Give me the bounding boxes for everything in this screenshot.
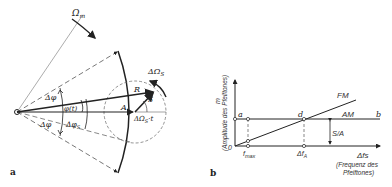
omega-m-label: Ωm (71, 8, 85, 19)
phi-t-label: φ(t) (64, 105, 77, 113)
figure-canvas: Ωm ΔΩS Δφ Δφ φ(t) ΔφS R A S ΔΩS·t a (0, 0, 392, 187)
a-label: A (120, 103, 127, 112)
point-a-label: a (238, 110, 243, 119)
point-d-label: d (298, 110, 303, 119)
delta-phi-s-label: ΔφS (65, 120, 81, 130)
s-a-label: S/A (332, 129, 344, 138)
fm-line (235, 100, 356, 146)
x-axis-label-line1: (Frequenz des (336, 161, 379, 169)
point-b-label: b (376, 110, 381, 119)
x-axis-symbol: Δfs (356, 151, 369, 160)
point-delta-fa (302, 144, 305, 147)
delta-phi-lower-label: Δφ (39, 120, 52, 129)
fm-label: FM (337, 91, 349, 100)
delta-phi-arc-arrowhead-top (58, 90, 63, 94)
am-label: AM (341, 110, 354, 119)
fmax-label: fmax (243, 150, 256, 159)
vector-r (17, 92, 153, 112)
delta-phi-s-arc (85, 99, 87, 129)
point-fmax-fm (246, 139, 249, 142)
delta-omega-s-label: ΔΩS (147, 67, 164, 77)
y-axis-symbol: m (214, 98, 221, 104)
s-label: S (148, 95, 153, 104)
point-fmax-axis (246, 144, 249, 147)
panel-b-label: b (210, 168, 216, 178)
y-axis-label: (Amplitude des Pfeiftones) (221, 75, 229, 151)
point-a (233, 117, 236, 120)
panel-b-chart: a b d FM AM S/A 0 fmax ΔfA Δfs (Frequenz… (210, 75, 381, 178)
omega-m-rotation-arrow (72, 19, 95, 38)
x-axis-label-line2: Pfeiftones) (343, 169, 374, 177)
panel-a-diagram: Ωm ΔΩS Δφ Δφ φ(t) ΔφS R A S ΔΩS·t a (10, 8, 166, 177)
upper-dashed-ray (17, 52, 117, 112)
r-label: R (133, 85, 140, 94)
delta-fa-label: ΔfA (296, 150, 308, 159)
delta-phi-arc-arrowhead-bottom (58, 130, 63, 134)
origin-label: 0 (228, 144, 232, 151)
omega-t-label: ΔΩS·t (133, 115, 154, 124)
panel-a-label: a (10, 167, 16, 177)
delta-phi-upper-label: Δφ (44, 93, 57, 102)
point-fmax-top (246, 117, 249, 120)
